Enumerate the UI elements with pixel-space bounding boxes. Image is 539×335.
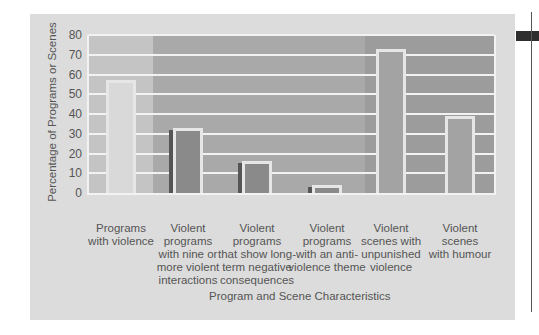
bar (445, 116, 475, 193)
gridline (89, 153, 494, 155)
gridline (89, 133, 494, 135)
y-tick-label: 0 (52, 186, 82, 200)
y-tick-label: 60 (52, 68, 82, 82)
y-tick-label: 70 (52, 48, 82, 62)
y-tick-label: 20 (52, 147, 82, 161)
y-tick-label: 30 (52, 127, 82, 141)
y-axis-ticks: 80706050403020100 (52, 35, 82, 193)
page-tab-marker (516, 31, 539, 41)
plot-right-border (494, 35, 496, 193)
plot-area (89, 35, 494, 193)
bar (106, 80, 136, 193)
gridline (89, 54, 494, 56)
gridline (89, 113, 494, 115)
x-axis-label: Program and Scene Characteristics (209, 290, 391, 302)
bar (376, 49, 406, 193)
gridline (89, 172, 494, 174)
y-tick-label: 40 (52, 107, 82, 121)
gridline (89, 34, 494, 36)
y-tick-label: 50 (52, 87, 82, 101)
y-axis-line (87, 35, 89, 193)
x-category-label: Violentsceneswith humour (418, 222, 502, 261)
y-tick-label: 80 (52, 28, 82, 42)
bar (242, 161, 272, 193)
gridline (89, 74, 494, 76)
y-tick-label: 10 (52, 166, 82, 180)
bar (173, 128, 203, 193)
x-axis-line (87, 193, 496, 195)
gridline (89, 93, 494, 95)
page-margin-line (531, 12, 532, 312)
bar (312, 185, 342, 193)
